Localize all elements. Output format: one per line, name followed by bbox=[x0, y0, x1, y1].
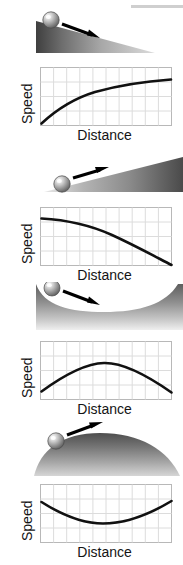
physics-figure: Speed Distance bbox=[0, 0, 183, 565]
panel-hill: Speed Distance bbox=[0, 420, 183, 565]
x-axis-label-distance-3: Distance bbox=[0, 402, 183, 416]
panel-valley: Speed Distance bbox=[0, 280, 183, 420]
rolling-ball bbox=[44, 282, 60, 296]
y-axis-label-speed-3: Speed bbox=[20, 358, 34, 398]
scene-uphill-ramp bbox=[0, 148, 183, 196]
panel-uphill: Speed Distance bbox=[0, 140, 183, 280]
y-axis-label-speed-1: Speed bbox=[20, 84, 34, 124]
x-axis-label-distance-4: Distance bbox=[0, 545, 183, 559]
motion-arrow bbox=[73, 167, 109, 178]
scene-hill-surface bbox=[0, 420, 183, 480]
scene-downhill-ramp bbox=[0, 8, 183, 56]
rolling-ball bbox=[48, 433, 64, 449]
motion-arrow bbox=[63, 291, 100, 305]
y-axis-label-speed-2: Speed bbox=[20, 224, 34, 264]
y-axis-label-speed-4: Speed bbox=[20, 501, 34, 541]
rolling-ball bbox=[54, 176, 70, 192]
panel-downhill: Speed Distance bbox=[0, 0, 183, 140]
rolling-ball bbox=[43, 12, 59, 28]
scene-valley-surface bbox=[0, 282, 183, 334]
